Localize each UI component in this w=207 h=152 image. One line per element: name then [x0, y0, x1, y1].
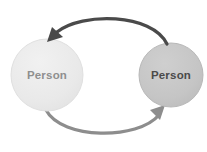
node-person-left: Person	[11, 39, 83, 111]
arrow-bottom	[46, 105, 165, 133]
person-left-label: Person	[27, 69, 67, 81]
arrow-bottom-curve	[46, 110, 159, 133]
diagram-svg: Person Person	[0, 0, 207, 152]
person-right-label: Person	[151, 69, 191, 81]
arrow-top-curve	[57, 19, 167, 44]
node-person-right: Person	[139, 43, 203, 107]
diagram-canvas: Person Person	[0, 0, 207, 152]
arrow-top	[47, 19, 167, 44]
